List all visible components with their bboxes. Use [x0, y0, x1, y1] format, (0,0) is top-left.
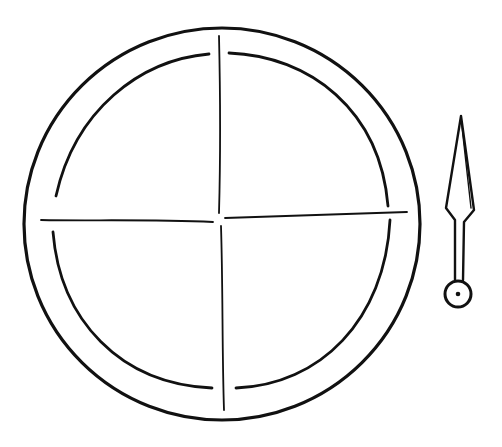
- inner-arc-top-right: [229, 53, 388, 206]
- spinner-diagram: [0, 0, 502, 447]
- divider-top: [219, 36, 220, 213]
- divider-bottom: [221, 226, 224, 410]
- inner-arc-bottom-right: [236, 220, 390, 388]
- inner-arc-top-left: [56, 54, 209, 196]
- divider-left: [41, 220, 213, 222]
- spinner-arrow-icon: [445, 116, 474, 307]
- quadrant-dividers: [41, 36, 407, 410]
- arrow-shading: [461, 118, 471, 208]
- outer-circle: [24, 28, 420, 420]
- spinner-pivot-dot: [456, 292, 461, 297]
- inner-arc-bottom-left: [53, 232, 212, 388]
- divider-right: [225, 212, 407, 218]
